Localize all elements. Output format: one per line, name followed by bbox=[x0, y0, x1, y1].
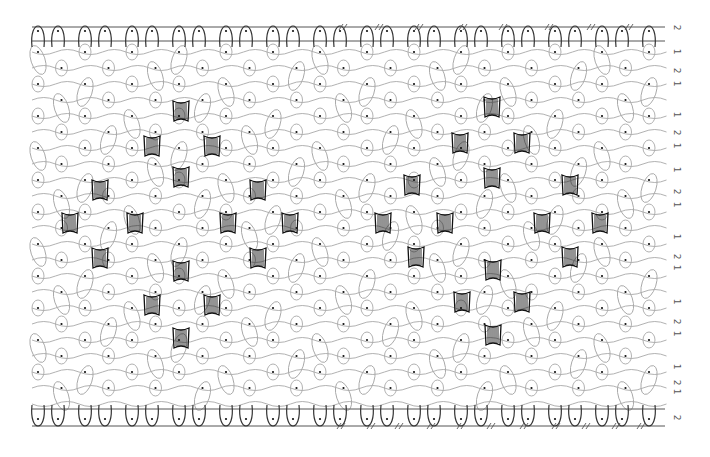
pin-hole bbox=[248, 99, 250, 101]
side-pair-label: 1 bbox=[672, 200, 681, 209]
pin-hole bbox=[319, 211, 321, 213]
thread-loop bbox=[426, 252, 449, 285]
pin-hole bbox=[319, 418, 321, 420]
pin-hole bbox=[84, 371, 86, 373]
pin-hole bbox=[554, 371, 556, 373]
thread-loop bbox=[215, 364, 238, 397]
pin-hole bbox=[554, 115, 556, 117]
pin-hole bbox=[339, 30, 341, 32]
footside-loop-top bbox=[99, 26, 112, 47]
side-pair-label: 2 bbox=[672, 413, 681, 422]
pin-hole bbox=[413, 179, 415, 181]
thread-loop bbox=[309, 140, 332, 173]
side-pair-label: 1 bbox=[672, 141, 681, 150]
pin-hole bbox=[60, 131, 62, 133]
footside-loop-top bbox=[475, 26, 488, 47]
pin-hole bbox=[460, 179, 462, 181]
pin-hole bbox=[366, 83, 368, 85]
side-pair-label: 1 bbox=[672, 387, 681, 396]
pin-hole bbox=[295, 163, 297, 165]
pin-hole bbox=[621, 418, 623, 420]
pin-hole bbox=[601, 147, 603, 149]
pin-hole bbox=[225, 179, 227, 181]
side-pair-label: 1 bbox=[672, 329, 681, 338]
pin-hole bbox=[436, 163, 438, 165]
pin-hole bbox=[413, 51, 415, 53]
thread-loop bbox=[97, 316, 120, 349]
pin-hole bbox=[577, 259, 579, 261]
pin-hole bbox=[60, 291, 62, 293]
pin-hole bbox=[319, 115, 321, 117]
pin-hole bbox=[366, 307, 368, 309]
pin-hole bbox=[577, 291, 579, 293]
pin-hole bbox=[413, 275, 415, 277]
side-pair-label: 2 bbox=[672, 252, 681, 261]
pin-hole bbox=[295, 131, 297, 133]
pin-hole bbox=[319, 83, 321, 85]
pin-hole bbox=[507, 115, 509, 117]
pin-hole bbox=[342, 195, 344, 197]
pin-hole bbox=[60, 355, 62, 357]
pin-hole bbox=[84, 179, 86, 181]
pin-hole bbox=[389, 355, 391, 357]
pin-hole bbox=[413, 147, 415, 149]
thread-loop bbox=[591, 44, 614, 77]
pin-hole bbox=[601, 307, 603, 309]
footside-loop-top bbox=[193, 26, 206, 47]
pin-hole bbox=[131, 371, 133, 373]
pin-hole bbox=[84, 275, 86, 277]
thread-loop bbox=[379, 316, 402, 349]
thread-loop bbox=[50, 380, 73, 413]
pin-hole bbox=[104, 30, 106, 32]
pin-hole bbox=[436, 99, 438, 101]
footside-loop-bottom bbox=[569, 405, 582, 426]
pin-hole bbox=[178, 275, 180, 277]
pin-hole bbox=[107, 355, 109, 357]
pin-hole bbox=[178, 30, 180, 32]
side-pair-label: 1 bbox=[672, 79, 681, 88]
pin-hole bbox=[460, 83, 462, 85]
pin-hole bbox=[295, 355, 297, 357]
pin-hole bbox=[295, 195, 297, 197]
pin-hole bbox=[154, 195, 156, 197]
pin-hole bbox=[577, 227, 579, 229]
pin-hole bbox=[201, 291, 203, 293]
pin-hole bbox=[554, 211, 556, 213]
thread-loop bbox=[144, 348, 167, 381]
thread-loop bbox=[426, 156, 449, 189]
footside-loop-top bbox=[569, 26, 582, 47]
pin-hole bbox=[648, 307, 650, 309]
pin-hole bbox=[319, 30, 321, 32]
pin-hole bbox=[507, 179, 509, 181]
thread-row bbox=[32, 402, 667, 407]
tally bbox=[485, 260, 501, 280]
footside-loop-bottom bbox=[502, 405, 515, 426]
side-pair-label: 2 bbox=[672, 378, 681, 387]
pin-hole bbox=[648, 243, 650, 245]
pin-hole bbox=[601, 275, 603, 277]
thread-loop bbox=[74, 268, 97, 301]
side-pair-label: 1 bbox=[672, 165, 681, 174]
thread-loop bbox=[591, 332, 614, 365]
thread-loop bbox=[520, 316, 543, 349]
thread-row bbox=[32, 290, 667, 295]
pin-hole bbox=[131, 30, 133, 32]
pin-hole bbox=[295, 259, 297, 261]
thread-loop bbox=[238, 124, 261, 157]
thread-loop bbox=[144, 60, 167, 93]
pin-hole bbox=[436, 355, 438, 357]
pin-hole bbox=[339, 418, 341, 420]
pin-hole bbox=[577, 99, 579, 101]
footside-loop-top bbox=[32, 26, 45, 47]
thread-loop bbox=[27, 236, 50, 269]
pin-hole bbox=[460, 211, 462, 213]
pin-hole bbox=[577, 163, 579, 165]
pin-hole bbox=[37, 83, 39, 85]
thread-loop bbox=[215, 172, 238, 205]
pin-hole bbox=[507, 275, 509, 277]
pin-hole bbox=[366, 418, 368, 420]
pin-hole bbox=[389, 67, 391, 69]
pin-hole bbox=[366, 275, 368, 277]
footside-loop-bottom bbox=[334, 405, 347, 426]
thread-loop bbox=[591, 236, 614, 269]
